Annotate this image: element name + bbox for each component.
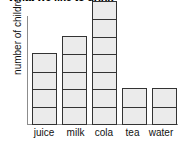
bar-slot — [30, 53, 58, 125]
bar-segment — [33, 107, 56, 125]
x-tick-water: water — [144, 127, 178, 138]
bar-segment — [63, 107, 86, 125]
bar-segment — [63, 37, 86, 55]
bar-segment — [93, 72, 116, 90]
bar-milk — [62, 36, 87, 126]
bar-segment — [123, 89, 146, 107]
bar-segment — [93, 2, 116, 20]
y-axis-line — [27, 16, 28, 125]
bar-segment — [153, 107, 176, 125]
bar-segment — [33, 89, 56, 107]
bar-segment — [93, 19, 116, 37]
bar-slot — [90, 1, 118, 126]
bar-segment — [93, 89, 116, 107]
bar-segment — [33, 54, 56, 72]
bar-segment — [153, 89, 176, 107]
bar-slot — [120, 88, 148, 125]
x-tick-cola: cola — [90, 127, 118, 138]
bar-slot — [60, 36, 88, 126]
bar-segment — [93, 54, 116, 72]
bar-juice — [32, 53, 57, 125]
bar-segment — [123, 107, 146, 125]
bar-tea — [122, 88, 147, 125]
bar-water — [152, 88, 177, 125]
bar-segment — [93, 107, 116, 125]
bar-segment — [63, 89, 86, 107]
x-tick-tea: tea — [119, 127, 147, 138]
x-axis-tick-labels: juicemilkcolateawater — [30, 127, 178, 138]
bar-segment — [63, 72, 86, 90]
bar-slot — [150, 88, 178, 125]
bar-cola — [92, 1, 117, 126]
bar-segment — [93, 37, 116, 55]
plot-area — [30, 10, 178, 125]
bar-chart: What we like to drink number of children… — [0, 0, 185, 150]
x-tick-juice: juice — [27, 127, 61, 138]
bar-segment — [63, 54, 86, 72]
y-axis-label: number of children — [12, 0, 23, 89]
x-tick-milk: milk — [62, 127, 90, 138]
bar-segment — [33, 72, 56, 90]
